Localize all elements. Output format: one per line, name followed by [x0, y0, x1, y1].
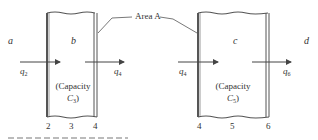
cropped-caption-fragment: [8, 134, 128, 140]
diagram-lines: [0, 0, 318, 140]
region-label-b: b: [71, 36, 76, 46]
flow-label-q4-right: q4: [179, 67, 187, 77]
flow-label-q6: q6: [283, 67, 291, 77]
region-label-c: c: [233, 36, 237, 46]
position-4-right: 4: [197, 122, 202, 131]
right-box-capacity: (Capacity C5): [208, 80, 258, 107]
region-label-d: d: [304, 36, 309, 46]
position-3: 3: [69, 122, 74, 131]
position-2: 2: [46, 122, 51, 131]
area-a-label: Area A: [135, 12, 161, 21]
position-6: 6: [266, 122, 271, 131]
flow-label-q2: q2: [20, 67, 28, 77]
heat-flow-diagram: a b c d Area A q2 q4 q4 q6 (Capacity C3)…: [0, 0, 318, 140]
region-label-a: a: [8, 36, 13, 46]
flow-label-q4-left: q4: [114, 67, 122, 77]
left-box-capacity: (Capacity C3): [48, 80, 98, 107]
position-5: 5: [230, 122, 235, 131]
position-4-left: 4: [93, 122, 98, 131]
